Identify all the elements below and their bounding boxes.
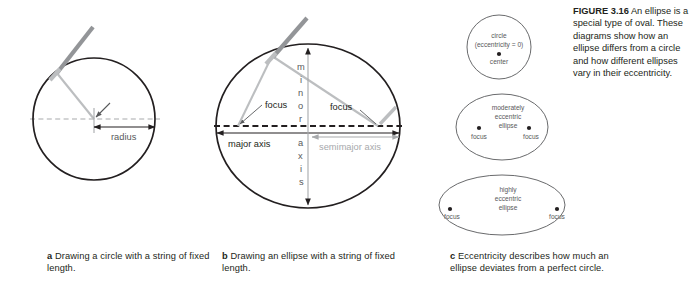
panel-b-caption: b Drawing an ellipse with a string of fi… bbox=[222, 250, 412, 275]
circle-center-pin-arrow bbox=[96, 103, 110, 117]
ecc-high-focus-dot-left bbox=[448, 207, 452, 211]
focus-left-label: focus bbox=[265, 100, 288, 110]
panel-c-caption: c Eccentricity describes how much an ell… bbox=[450, 250, 635, 275]
figure-canvas: radius focus focus major axis bbox=[0, 0, 694, 305]
panel-a-caption: a Drawing a circle with a string of fixe… bbox=[47, 250, 222, 275]
ecc-high-title-line: highly bbox=[499, 186, 517, 194]
figure-caption: FIGURE 3.16 An ellipse is a special type… bbox=[573, 5, 691, 79]
panel-a-diagram: radius bbox=[30, 27, 160, 180]
ecc-moderate-title-line: ellipse bbox=[499, 122, 518, 130]
ellipse-pencil-body bbox=[273, 18, 307, 57]
ecc-shape-moderate: moderately eccentric ellipse focus focus bbox=[456, 94, 548, 160]
panel-b-diagram: focus focus major axis semimajor axis m … bbox=[214, 18, 402, 208]
ecc-moderate-focus-label-right: focus bbox=[523, 133, 539, 140]
ecc-moderate-focus-dot-right bbox=[527, 126, 531, 130]
ecc-circle-title-line: circle bbox=[491, 32, 507, 39]
ecc-moderate-title-line: moderately bbox=[492, 104, 525, 112]
ecc-shape-high: highly eccentric ellipse focus focus bbox=[439, 175, 566, 235]
minor-axis-label: m i n o r a x i s bbox=[297, 62, 305, 187]
ellipse-pencil-right bbox=[380, 107, 396, 124]
ecc-circle-title-line: (eccentricity = 0) bbox=[475, 41, 524, 49]
ecc-shape-circle: circle (eccentricity = 0) center bbox=[467, 15, 531, 79]
panel-a-caption-text: Drawing a circle with a string of fixed … bbox=[47, 251, 209, 273]
ecc-high-title-line: ellipse bbox=[499, 204, 518, 212]
circle-string bbox=[56, 72, 94, 119]
panel-c-diagram: circle (eccentricity = 0) center moderat… bbox=[439, 15, 566, 235]
minor-axis-letter: o bbox=[298, 101, 303, 111]
panel-c-caption-text: Eccentricity describes how much an ellip… bbox=[450, 251, 609, 273]
ecc-moderate-focus-dot-left bbox=[477, 126, 481, 130]
ecc-high-title-line: eccentric bbox=[495, 195, 522, 202]
ecc-high-focus-dot-right bbox=[555, 207, 559, 211]
ecc-moderate-focus-label-left: focus bbox=[471, 133, 487, 140]
panel-b-caption-text: Drawing an ellipse with a string of fixe… bbox=[222, 251, 395, 273]
figure-caption-label: FIGURE 3.16 bbox=[573, 6, 629, 16]
minor-axis-letter: x bbox=[298, 151, 303, 161]
minor-axis-letter: r bbox=[299, 114, 302, 124]
ecc-moderate-title-line: eccentric bbox=[495, 113, 522, 120]
focus-right-label: focus bbox=[330, 102, 353, 112]
minor-axis-letter: i bbox=[300, 164, 302, 174]
ecc-high-focus-label-left: focus bbox=[444, 213, 460, 220]
ellipse-string-right bbox=[272, 56, 378, 126]
minor-axis-letter: i bbox=[300, 75, 302, 85]
minor-axis-letter: m bbox=[297, 62, 305, 72]
semimajor-axis-label: semimajor axis bbox=[319, 142, 381, 152]
minor-axis-letter: s bbox=[299, 177, 304, 187]
focus-right-leader bbox=[360, 110, 376, 124]
circle-radius-label: radius bbox=[111, 132, 137, 142]
major-axis-label: major axis bbox=[228, 139, 271, 149]
ecc-circle-center-label: center bbox=[490, 58, 509, 65]
ellipse-string-left bbox=[238, 56, 272, 126]
minor-axis-letter: n bbox=[298, 88, 303, 98]
figure-caption-text: An ellipse is a special type of oval. Th… bbox=[573, 6, 688, 78]
circle-pencil-body bbox=[57, 27, 93, 73]
minor-axis-letter: a bbox=[298, 138, 304, 148]
ecc-circle-center-dot bbox=[497, 52, 501, 56]
ecc-high-focus-label-right: focus bbox=[549, 213, 565, 220]
